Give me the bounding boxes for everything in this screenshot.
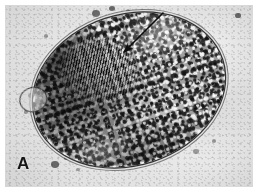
debris-particle xyxy=(193,149,198,153)
debris-particle xyxy=(235,13,241,18)
panel-label: A xyxy=(17,155,30,172)
figure-root: A xyxy=(0,0,258,193)
debris-particle xyxy=(92,10,100,17)
micrograph-plate xyxy=(5,5,253,187)
